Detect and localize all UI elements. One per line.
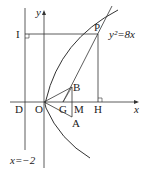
diagram-canvas: P I y²=8x y x D O G M H B A x=−2 [0, 0, 147, 170]
label-D: D [15, 103, 23, 115]
directrix-label: x=−2 [9, 154, 36, 166]
curve-label: y²=8x [108, 28, 135, 40]
y-axis-label: y [35, 6, 41, 18]
x-axis-label: x [133, 103, 139, 115]
label-B: B [73, 81, 80, 93]
segment-OA [44, 102, 72, 117]
label-I: I [16, 28, 20, 40]
right-angle-H-icon [98, 98, 102, 102]
label-A: A [72, 117, 80, 129]
label-G: G [59, 103, 67, 115]
right-angle-I-icon [25, 34, 29, 38]
y-axis-arrow-icon [42, 10, 46, 15]
label-M: M [74, 103, 84, 115]
parabola-diagram: P I y²=8x y x D O G M H B A x=−2 [0, 0, 147, 170]
label-H: H [94, 103, 102, 115]
label-P: P [94, 21, 100, 33]
label-O: O [35, 103, 43, 115]
parabola-curve [45, 10, 118, 158]
